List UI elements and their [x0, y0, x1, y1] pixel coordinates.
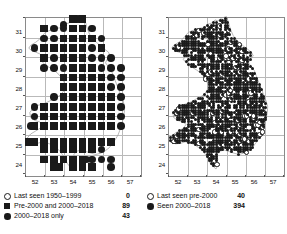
map-symbol-square	[40, 113, 48, 121]
map-symbol-circle	[50, 25, 58, 33]
y-tick-mark	[23, 76, 25, 77]
x-tick-mark	[63, 175, 64, 177]
map-symbol-dot	[192, 132, 195, 135]
map-symbol-square	[69, 25, 77, 33]
map-symbol-square	[40, 44, 48, 52]
legend-count: 40	[223, 191, 245, 201]
map-symbol-circle	[50, 54, 58, 62]
map-symbol-dot	[192, 116, 195, 119]
map-symbol-dot	[249, 65, 252, 68]
legend-row: Seen 2000–2018 394	[143, 201, 287, 211]
legend-count: 394	[223, 201, 245, 211]
y-tick-mark	[166, 56, 168, 57]
map-symbol-square	[50, 113, 58, 121]
right-x-tick-55: 55	[229, 179, 241, 185]
x-tick-mark	[283, 175, 284, 177]
x-tick-mark	[187, 175, 188, 177]
map-symbol-dot	[228, 139, 231, 142]
map-symbol-circle	[107, 54, 115, 62]
left-x-tick-55: 55	[86, 179, 98, 185]
map-symbol-square	[60, 44, 68, 52]
map-symbol-square	[60, 103, 68, 111]
grid-line-horizontal	[169, 155, 284, 156]
map-symbol-square	[60, 122, 68, 130]
map-symbol-square	[88, 74, 96, 82]
right-y-tick-28: 28	[153, 86, 165, 92]
map-symbol-dot	[217, 63, 220, 66]
legend-count: 89	[108, 201, 130, 211]
map-symbol-square	[88, 138, 96, 146]
left-y-tick-28: 28	[10, 86, 22, 92]
map-symbol-square	[79, 163, 87, 171]
map-symbol-circle	[40, 64, 48, 72]
map-symbol-square	[69, 83, 77, 91]
map-symbol-circle	[74, 15, 82, 23]
map-symbol-square	[79, 54, 87, 62]
y-tick-mark	[166, 134, 168, 135]
map-symbol-square	[88, 113, 96, 121]
map-symbol-dot	[192, 63, 195, 66]
map-symbol-square	[50, 138, 58, 146]
right-legend: Last seen pre-2000 40 Seen 2000–2018 394	[143, 191, 287, 211]
legend-count: 0	[108, 191, 130, 201]
map-symbol-dot	[201, 123, 204, 126]
map-symbol-square	[40, 122, 48, 130]
y-tick-mark	[23, 115, 25, 116]
map-symbol-circle	[117, 113, 125, 121]
map-symbol-dot	[260, 93, 263, 96]
filled-square-icon	[4, 203, 10, 209]
right-y-tick-25: 25	[153, 143, 165, 149]
map-symbol-square	[79, 138, 87, 146]
map-symbol-dot	[235, 40, 238, 43]
legend-row: 2000–2018 only 43	[0, 211, 144, 221]
map-symbol-dot	[203, 146, 206, 149]
map-symbol-dot	[194, 139, 197, 142]
map-symbol-dot	[197, 40, 200, 43]
y-tick-mark	[23, 134, 25, 135]
open-circle-icon	[4, 193, 11, 200]
map-symbol-dot	[224, 86, 227, 89]
left-x-tick-54: 54	[67, 179, 79, 185]
map-symbol-circle	[31, 103, 39, 111]
map-symbol-dot	[228, 86, 231, 89]
map-symbol-square	[107, 103, 115, 111]
right-y-tick-31: 31	[153, 29, 165, 35]
map-symbol-dot	[258, 86, 261, 89]
map-symbol-square	[69, 74, 77, 82]
right-x-tick-52: 52	[172, 179, 184, 185]
map-symbol-dot	[201, 70, 204, 73]
map-symbol-square	[107, 122, 115, 130]
y-tick-mark	[23, 154, 25, 155]
y-tick-mark	[166, 154, 168, 155]
map-symbol-square	[79, 113, 87, 121]
right-x-tick-57: 57	[267, 179, 279, 185]
map-symbol-circle	[40, 35, 48, 43]
map-symbol-dot	[249, 51, 252, 54]
map-symbol-square	[60, 138, 68, 146]
map-symbol-circle	[88, 44, 96, 52]
map-symbol-square	[40, 54, 48, 62]
map-symbol-circle	[69, 146, 77, 154]
right-x-tick-54: 54	[210, 179, 222, 185]
map-symbol-circle	[98, 64, 106, 72]
map-symbol-dot	[228, 70, 231, 73]
map-symbol-square	[60, 83, 68, 91]
y-tick-mark	[23, 173, 25, 174]
map-symbol-square	[60, 113, 68, 121]
left-y-tick-24: 24	[10, 162, 22, 168]
left-y-tick-31: 31	[10, 29, 22, 35]
left-y-tick-30: 30	[10, 48, 22, 54]
grid-line-horizontal	[26, 135, 141, 136]
map-symbol-square	[88, 122, 96, 130]
map-symbol-square	[60, 74, 68, 82]
left-x-tick-57: 57	[124, 179, 136, 185]
map-symbol-square	[69, 35, 77, 43]
legend-count: 43	[108, 211, 130, 221]
map-symbol-circle	[50, 156, 58, 164]
legend-label: Pre-2000 and 2000–2018	[14, 201, 93, 211]
map-symbol-square	[40, 138, 48, 146]
map-symbol-square	[31, 138, 39, 146]
filled-circle-icon	[147, 203, 154, 210]
map-symbol-dot	[199, 146, 202, 149]
map-symbol-square	[69, 138, 77, 146]
